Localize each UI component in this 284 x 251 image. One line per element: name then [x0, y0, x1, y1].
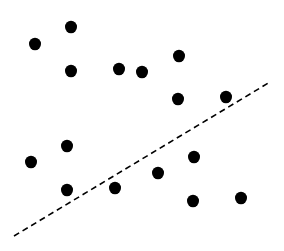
data-point	[172, 93, 184, 106]
data-point	[173, 50, 185, 63]
data-point	[136, 66, 148, 79]
data-point	[152, 167, 164, 180]
scatter-diagram	[0, 0, 284, 251]
data-point	[61, 184, 73, 197]
data-point	[25, 156, 37, 169]
data-point	[113, 63, 125, 76]
data-point	[109, 182, 121, 195]
dashed-separator-line	[14, 82, 270, 236]
data-point	[188, 151, 200, 164]
data-point	[61, 140, 73, 153]
data-point	[187, 195, 199, 208]
data-point	[29, 38, 41, 51]
data-point	[220, 91, 232, 104]
data-point	[65, 65, 77, 78]
data-point	[235, 192, 247, 205]
data-point	[65, 21, 77, 34]
data-points	[25, 21, 247, 208]
